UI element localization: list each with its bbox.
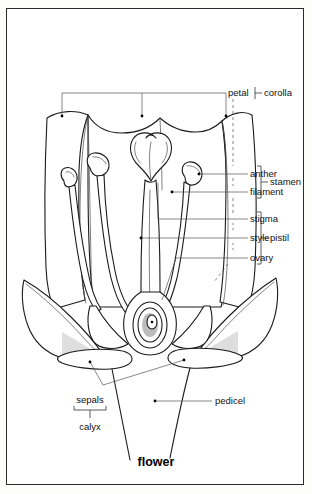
label-petal: petal — [228, 87, 249, 98]
label-ovary: ovary — [250, 252, 273, 263]
style-shape — [141, 180, 160, 307]
calyx-bracket — [74, 406, 106, 418]
pedicel-left-edge — [112, 369, 130, 460]
ovule-center-dot — [151, 321, 154, 324]
label-filament: filament — [250, 186, 284, 197]
filament-dot — [171, 191, 174, 194]
label-sepals: sepals — [76, 394, 104, 405]
petal-dot-left — [61, 115, 64, 118]
label-pistil: pistil — [270, 232, 289, 243]
corolla-bracket — [255, 87, 262, 99]
pedicel-dot — [154, 400, 157, 403]
figure-title: flower — [138, 455, 175, 469]
pedicel-group — [112, 368, 190, 460]
sepal-left-base — [58, 349, 132, 369]
label-style: style — [250, 232, 270, 243]
label-stigma: stigma — [250, 213, 279, 224]
flower-illustration: petal corolla anther filament stamen sti… — [0, 0, 312, 494]
label-calyx: calyx — [79, 421, 101, 432]
inner-bract-left — [88, 306, 128, 349]
inner-bract-right — [172, 306, 212, 349]
label-corolla: corolla — [264, 87, 293, 98]
sepal-dot-right — [183, 359, 186, 362]
label-pedicel: pedicel — [215, 395, 245, 406]
flower-drawing — [22, 112, 277, 460]
label-stamen: stamen — [270, 176, 301, 187]
flower-diagram-page: petal corolla anther filament stamen sti… — [0, 0, 312, 494]
sepal-right-base — [168, 348, 242, 368]
pedicel-right-edge — [170, 368, 190, 458]
petal-dot-center — [141, 115, 144, 118]
sepal-dot-left — [89, 361, 92, 364]
anther-dot — [198, 173, 201, 176]
style-dot — [140, 237, 143, 240]
petal-left-shape — [45, 112, 88, 309]
petal-dot-right — [225, 115, 228, 118]
